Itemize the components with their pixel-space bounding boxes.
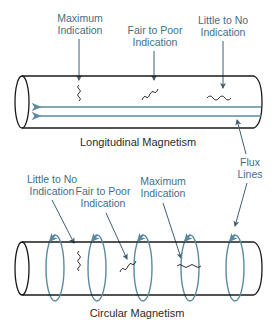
cylinder-right-cap: [254, 242, 262, 295]
pointer-arrow-icon: [52, 200, 74, 243]
long-label-max-line1: Maximum: [57, 12, 103, 24]
defect-little-icon: [207, 96, 231, 100]
circular-title: Circular Magnetism: [90, 307, 185, 319]
flux-ring-back: [46, 235, 55, 301]
flux-lines-callout: Flux Lines: [235, 120, 263, 226]
circ-label-little-line2: Indication: [30, 185, 75, 197]
pointer-arrow-icon: [235, 183, 247, 226]
long-label-fair-line1: Fair to Poor: [128, 24, 183, 36]
defect-fair-icon: [142, 89, 158, 100]
long-label-fair-line2: Indication: [133, 36, 178, 48]
circ-label-little-line1: Little to No: [27, 173, 77, 185]
flux-ring-arrow-icon: [50, 235, 64, 301]
flux-label-line2: Lines: [237, 168, 262, 180]
cylinder-right-cap: [254, 76, 262, 128]
longitudinal-title: Longitudinal Magnetism: [80, 136, 196, 148]
circular-section: Little to No Indication Fair to Poor Ind…: [15, 173, 262, 319]
flux-ring-arrow-icon: [92, 235, 106, 301]
cylinder-end-ellipse: [15, 76, 29, 128]
long-label-little-line1: Little to No: [198, 14, 248, 26]
longitudinal-section: Maximum Indication Fair to Poor Indicati…: [15, 12, 262, 148]
long-label-max-line2: Indication: [58, 24, 103, 36]
circ-label-max-line2: Indication: [141, 187, 186, 199]
magnetism-diagram: Maximum Indication Fair to Poor Indicati…: [0, 0, 276, 336]
defect-little-icon: [78, 251, 81, 271]
defect-max-icon: [78, 85, 81, 101]
circ-label-max-line1: Maximum: [140, 175, 186, 187]
cylinder-end-ellipse: [15, 242, 29, 295]
flux-ring-back: [226, 235, 235, 301]
flux-ring-arrow-icon: [138, 235, 152, 301]
flux-label-line1: Flux: [240, 156, 261, 168]
flux-ring-arrow-icon: [230, 235, 244, 301]
pointer-arrow-icon: [237, 120, 246, 154]
pointer-arrow-icon: [106, 213, 127, 259]
long-label-little-line2: Indication: [201, 26, 246, 38]
pointer-arrow-icon: [163, 203, 181, 258]
circ-label-fair-line1: Fair to Poor: [76, 185, 131, 197]
flux-ring-back: [134, 235, 143, 301]
flux-ring-back: [88, 235, 97, 301]
flux-ring-arrow-icon: [185, 235, 199, 301]
circ-label-fair-line2: Indication: [81, 197, 126, 209]
flux-ring-back: [181, 235, 190, 301]
